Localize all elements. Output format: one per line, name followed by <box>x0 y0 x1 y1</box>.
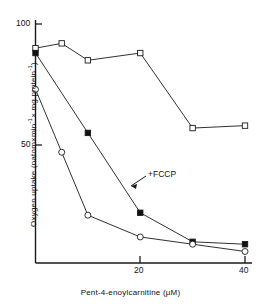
y-axis-label-part2: × mg protein <box>29 71 38 118</box>
y-axis-label-sup2: -1 <box>27 65 33 71</box>
series-open-circles <box>33 86 249 254</box>
data-point-open-squares-uncoupled-10 <box>85 130 90 135</box>
y-axis-label-part3: ) <box>29 62 38 65</box>
x-tick-label-40: 40 <box>239 265 248 275</box>
data-point-open-circles-5 <box>59 149 65 155</box>
annotation-arrow-layer <box>131 176 146 189</box>
data-point-open-squares-20 <box>138 50 143 55</box>
y-tick-label-100: 100 <box>16 18 30 28</box>
series-line-open-circles <box>36 89 246 251</box>
axes <box>36 20 253 263</box>
series-layer <box>33 41 249 255</box>
fccp-arrow-head <box>131 184 137 189</box>
data-point-open-squares-10 <box>85 58 90 63</box>
data-point-open-squares-uncoupled-20 <box>138 210 143 215</box>
data-point-open-circles-20 <box>137 234 143 240</box>
data-point-open-circles-40 <box>242 248 248 254</box>
chart-plot-area <box>0 0 261 306</box>
series-open-squares-uncoupled <box>33 50 248 247</box>
fccp-arrow-shaft <box>131 176 146 186</box>
data-point-open-squares-5 <box>59 41 64 46</box>
series-open-squares <box>33 41 248 131</box>
data-point-open-circles-10 <box>85 212 91 218</box>
figure-panel: Oxygen uptake (natom×min-1× mg protein-1… <box>0 0 261 306</box>
x-axis-label: Pent-4-enoylcarnitine (µM) <box>0 288 261 297</box>
fccp-annotation-label: +FCCP <box>148 169 176 179</box>
data-point-open-squares-30 <box>190 125 195 130</box>
data-point-open-circles-30 <box>190 241 196 247</box>
data-point-open-squares-40 <box>242 123 247 128</box>
data-point-open-squares-uncoupled-40 <box>242 242 247 247</box>
x-tick-label-20: 20 <box>134 265 143 275</box>
y-axis-label-sup1: -1 <box>27 118 33 124</box>
y-tick-label-50: 50 <box>21 139 30 149</box>
